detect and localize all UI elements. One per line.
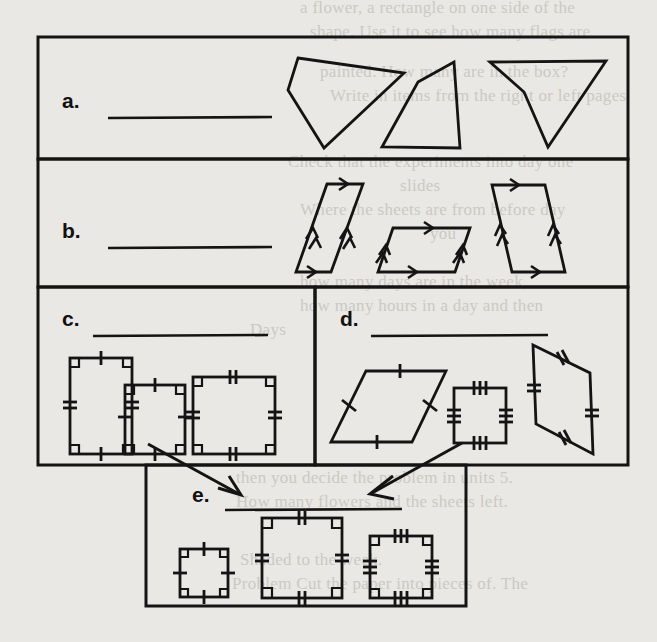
mark-c2-right-angles [125, 385, 185, 454]
mark-d1-tick-single [342, 364, 437, 449]
worksheet-diagram: a. b. c. d. e. [0, 0, 657, 642]
figure-b-1-parallelogram [296, 184, 363, 272]
worksheet-sheet: a flower, a rectangle on one side of the… [0, 0, 657, 642]
mark-e1-tick-single [173, 542, 235, 604]
figure-c-3-rectangle-wide [193, 377, 275, 454]
answer-line-a[interactable] [108, 117, 272, 118]
figure-c-1-rectangle-tall [70, 358, 132, 454]
mark-e2-right-angles [262, 518, 342, 598]
mark-d3-tick-double [527, 350, 599, 445]
mark-c3-tick-double-side [186, 412, 282, 418]
figure-a-3-concave-quadrilateral [490, 61, 606, 147]
figure-c-2-rectangle-square [125, 385, 185, 454]
mark-e1-right-angles [180, 549, 228, 597]
section-e-label: e. [192, 483, 210, 506]
answer-line-b[interactable] [108, 247, 272, 248]
answer-line-e[interactable] [225, 509, 402, 510]
section-b-label: b. [62, 219, 81, 242]
mark-c3-right-angles [193, 377, 275, 454]
answer-line-d[interactable] [371, 335, 548, 336]
arrow-d-to-e [370, 443, 462, 499]
figure-e-2-square-large [262, 518, 342, 598]
section-d-label: d. [340, 307, 359, 330]
section-d-box [315, 287, 628, 465]
mark-c1-right-angles [70, 358, 132, 454]
section-a-label: a. [62, 89, 80, 112]
figure-d-2-rhombus-square [454, 388, 506, 443]
figure-a-2-irregular-quadrilateral [382, 62, 460, 148]
mark-d2-tick-triple [447, 381, 513, 450]
figure-b-2-parallelogram [378, 228, 470, 272]
mark-e2-tick-double [255, 511, 349, 605]
section-c-label: c. [62, 307, 80, 330]
mark-b3-double-arrow-left [495, 225, 508, 246]
mark-e3-tick-triple [363, 529, 439, 605]
mark-e3-right-angles [370, 536, 432, 598]
mark-c3-tick-double-top [230, 370, 236, 461]
mark-b3-double-arrow-right [548, 225, 561, 246]
answer-line-c[interactable] [93, 335, 268, 336]
mark-c1-tick-double [63, 402, 139, 408]
figure-a-1-irregular-quadrilateral [288, 58, 404, 148]
